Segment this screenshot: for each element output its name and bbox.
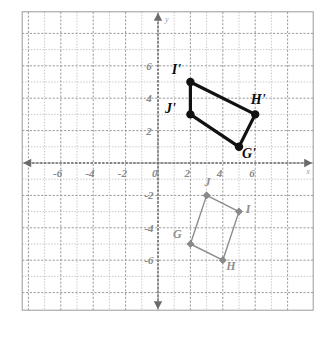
coordinate-plane-figure: -6-4-20246642-2-4-6xy GHIJ G'H'I'J' (0, 0, 335, 342)
coordinate-plane-svg: -6-4-20246642-2-4-6xy GHIJ G'H'I'J' (0, 0, 335, 342)
x-tick-label: 2 (183, 167, 190, 179)
y-tick-label: 6 (146, 60, 152, 72)
polygon-vertex-marker (186, 110, 194, 118)
vertex-label: J (204, 175, 212, 189)
x-axis-name-label: x (305, 167, 310, 176)
y-tick-label: -6 (144, 254, 154, 266)
vertex-label: I' (171, 62, 181, 77)
vertex-label: G (173, 227, 182, 241)
vertex-label: H' (250, 92, 266, 107)
x-tick-label: -2 (118, 167, 128, 179)
vertex-label: H (225, 259, 236, 273)
x-tick-label: -6 (53, 167, 63, 179)
x-tick-label: 6 (249, 167, 255, 179)
polygon-vertex-marker (251, 110, 259, 118)
y-tick-label: 2 (145, 125, 152, 137)
vertex-label: J' (164, 101, 176, 116)
y-tick-label: -4 (144, 222, 154, 234)
y-axis-name-label: y (164, 15, 169, 24)
figure-background (0, 0, 335, 342)
y-tick-label: -2 (144, 189, 154, 201)
x-tick-label: 4 (216, 167, 223, 179)
x-tick-label: 0 (152, 167, 158, 179)
screenshot-root: -6-4-20246642-2-4-6xy GHIJ G'H'I'J' (0, 0, 335, 342)
y-tick-label: 4 (145, 92, 152, 104)
vertex-label: G' (242, 146, 256, 161)
polygon-vertex-marker (186, 78, 194, 86)
x-tick-label: -4 (85, 167, 95, 179)
